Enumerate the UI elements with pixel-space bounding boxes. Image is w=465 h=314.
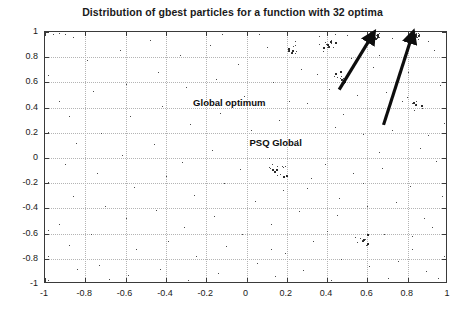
scatter-point bbox=[87, 60, 88, 61]
gridline-vertical bbox=[247, 32, 248, 282]
scatter-point bbox=[150, 40, 151, 41]
scatter-point bbox=[276, 169, 278, 171]
scatter-point bbox=[442, 196, 443, 197]
x-tick-mark bbox=[166, 278, 167, 282]
x-tick-label: -1 bbox=[40, 288, 48, 298]
x-tick-mark bbox=[287, 278, 288, 282]
scatter-point bbox=[126, 218, 127, 219]
scatter-point bbox=[357, 242, 358, 243]
x-tick-mark bbox=[126, 278, 127, 282]
scatter-point bbox=[130, 116, 131, 117]
scatter-point bbox=[59, 101, 60, 102]
scatter-point bbox=[365, 239, 366, 240]
y-tick-mark bbox=[45, 208, 49, 209]
scatter-point bbox=[384, 234, 385, 235]
scatter-point bbox=[48, 75, 49, 76]
gridline-horizontal bbox=[45, 57, 446, 58]
scatter-point bbox=[295, 53, 296, 54]
scatter-point bbox=[323, 51, 324, 52]
scatter-point bbox=[341, 259, 342, 260]
y-tick-label: 0.8 bbox=[8, 51, 38, 61]
scatter-point bbox=[242, 234, 243, 235]
x-tick-mark bbox=[367, 278, 368, 282]
scatter-point bbox=[408, 72, 409, 73]
x-tick-label: 1 bbox=[444, 288, 449, 298]
scatter-point bbox=[283, 190, 284, 191]
scatter-point bbox=[340, 71, 342, 73]
scatter-point bbox=[255, 201, 256, 202]
scatter-point bbox=[273, 82, 274, 83]
scatter-point bbox=[341, 76, 342, 77]
scatter-point bbox=[168, 241, 169, 242]
scatter-point bbox=[357, 95, 358, 96]
scatter-point bbox=[402, 101, 403, 102]
scatter-point bbox=[69, 116, 70, 117]
y-tick-mark bbox=[442, 82, 446, 83]
y-tick-label: 0.2 bbox=[8, 127, 38, 137]
y-tick-label: -0.2 bbox=[8, 177, 38, 187]
scatter-point bbox=[420, 148, 421, 149]
scatter-point bbox=[432, 227, 433, 228]
gridline-vertical bbox=[85, 32, 86, 282]
scatter-point bbox=[374, 35, 375, 36]
scatter-point bbox=[342, 80, 343, 81]
scatter-point bbox=[224, 183, 225, 184]
x-tick-mark bbox=[247, 32, 248, 36]
scatter-point bbox=[97, 173, 98, 174]
scatter-point bbox=[270, 168, 271, 169]
scatter-point bbox=[303, 270, 304, 271]
y-tick-label: -0.8 bbox=[8, 253, 38, 263]
scatter-point bbox=[48, 182, 49, 183]
scatter-point bbox=[272, 169, 274, 171]
scatter-point bbox=[240, 169, 241, 170]
x-tick-mark bbox=[166, 32, 167, 36]
scatter-point bbox=[48, 256, 49, 257]
scatter-point bbox=[99, 265, 100, 266]
scatter-point bbox=[344, 83, 345, 84]
x-tick-mark bbox=[206, 278, 207, 282]
scatter-point bbox=[65, 164, 66, 165]
scatter-point bbox=[291, 52, 292, 53]
x-tick-mark bbox=[206, 32, 207, 36]
y-tick-mark bbox=[45, 82, 49, 83]
scatter-point bbox=[271, 249, 272, 250]
scatter-point bbox=[339, 198, 340, 199]
y-tick-label: 1 bbox=[8, 26, 38, 36]
annotation-label-2: PSQ Global bbox=[250, 137, 302, 148]
scatter-point bbox=[355, 237, 356, 238]
gridline-horizontal bbox=[45, 82, 446, 83]
scatter-point bbox=[188, 280, 189, 281]
gridline-horizontal bbox=[45, 158, 446, 159]
scatter-chart-figure: Distribution of gbest particles for a fu… bbox=[0, 0, 465, 314]
y-tick-mark bbox=[442, 234, 446, 235]
scatter-point bbox=[73, 196, 74, 197]
scatter-point bbox=[409, 35, 410, 36]
scatter-point bbox=[409, 39, 410, 40]
scatter-point bbox=[166, 176, 167, 177]
gridline-horizontal bbox=[45, 208, 446, 209]
scatter-point bbox=[259, 34, 260, 35]
scatter-point bbox=[335, 34, 336, 35]
scatter-point bbox=[210, 45, 211, 46]
gridline-vertical bbox=[206, 32, 207, 282]
scatter-point bbox=[53, 34, 54, 35]
gridline-horizontal bbox=[45, 259, 446, 260]
scatter-point bbox=[247, 281, 248, 282]
scatter-point bbox=[156, 210, 157, 211]
scatter-point bbox=[386, 92, 387, 93]
gridline-vertical bbox=[166, 32, 167, 282]
y-tick-mark bbox=[45, 158, 49, 159]
gridline-vertical bbox=[126, 32, 127, 282]
scatter-point bbox=[424, 218, 425, 219]
scatter-point bbox=[331, 280, 332, 281]
x-tick-label: 0 bbox=[243, 288, 248, 298]
scatter-point bbox=[109, 279, 110, 280]
scatter-point bbox=[162, 106, 163, 107]
scatter-point bbox=[289, 101, 290, 102]
y-tick-label: 0.6 bbox=[8, 76, 38, 86]
y-tick-label: -1 bbox=[8, 278, 38, 288]
scatter-point bbox=[398, 261, 399, 262]
scatter-point bbox=[367, 206, 368, 207]
scatter-point bbox=[295, 41, 296, 42]
x-tick-label: -0.6 bbox=[117, 288, 133, 298]
